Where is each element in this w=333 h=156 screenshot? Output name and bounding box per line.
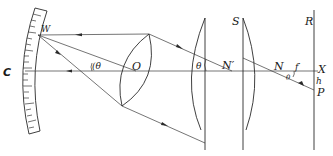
- label-n: N: [273, 60, 284, 73]
- label-theta-small: θ: [286, 74, 291, 82]
- label-n-prime: N′: [221, 59, 235, 72]
- plate-s: [243, 18, 255, 150]
- plate-1: [191, 18, 205, 150]
- ray-arrow-icon: [176, 44, 183, 49]
- label-h: h: [316, 76, 322, 86]
- label-o: O: [132, 60, 141, 73]
- optical-diagram: C W (θ O θ N′ S N f′ θ R X h P: [0, 0, 333, 156]
- label-theta-left: (θ: [92, 61, 102, 71]
- label-x: X: [317, 63, 327, 76]
- label-theta-mid: θ: [196, 61, 202, 71]
- label-c: C: [3, 66, 11, 79]
- label-f-prime: f′: [294, 62, 300, 72]
- label-w: W: [41, 24, 51, 34]
- ray-arrow-icon: [75, 33, 82, 36]
- rays: [38, 33, 314, 143]
- ray-arrow-icon: [161, 122, 168, 126]
- label-p: P: [316, 86, 325, 99]
- label-s: S: [232, 15, 240, 28]
- label-r: R: [304, 15, 313, 28]
- ray-arrow-icon: [55, 50, 61, 55]
- axis-arrow-icon: [66, 70, 72, 73]
